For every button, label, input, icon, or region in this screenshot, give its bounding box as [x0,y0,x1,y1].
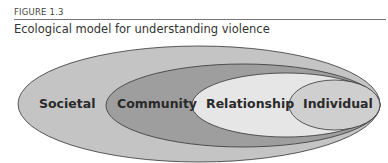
label-societal: Societal [39,96,95,111]
label-relationship: Relationship [206,96,294,111]
ecological-model-diagram: Societal Community Relationship Individu… [0,0,388,163]
label-community: Community [117,96,197,111]
label-individual: Individual [303,96,373,111]
